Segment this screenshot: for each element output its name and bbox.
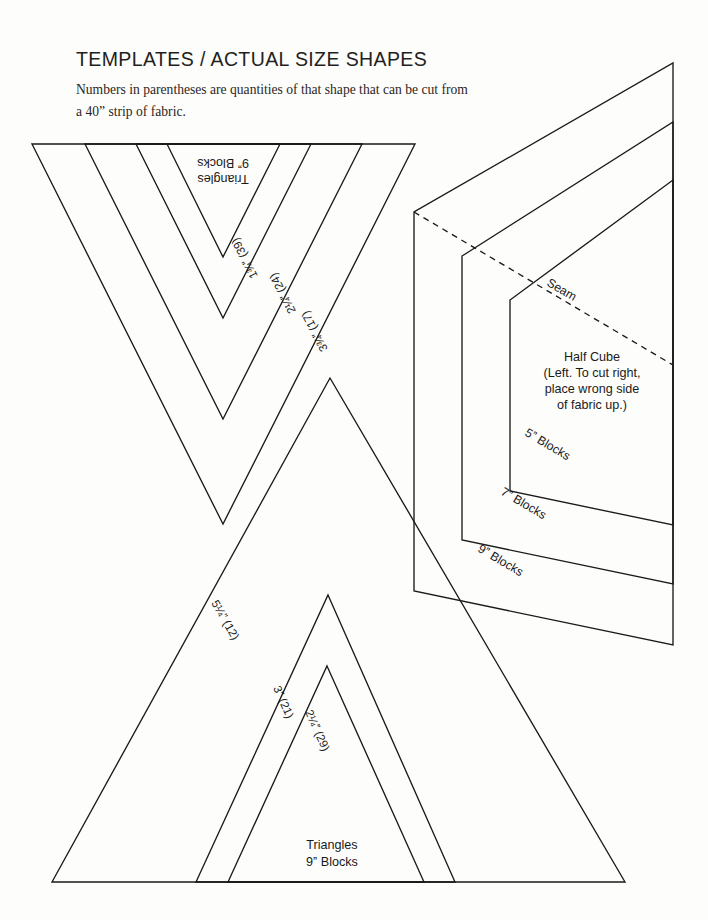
- half-cube-outline-9in: [414, 63, 673, 645]
- half-cube-block-label-9in: 9ˮ Blocks: [475, 542, 525, 580]
- bottom-triangle-edge-label-3: 2¼ˮ (29): [303, 708, 333, 753]
- top-triangle-edge-label-3: 3¾ˮ (17): [298, 309, 330, 354]
- half-cube-note-line-1: (Left. To cut right,: [543, 366, 640, 380]
- top-triangle-edge-label-1: 1¾ˮ (39): [228, 236, 260, 281]
- half-cube-seam-label: Seam: [544, 276, 579, 304]
- templates-drawing: Triangles 9ˮ Blocks 1¾ˮ (39) 2¼ˮ (24) 3¾…: [0, 0, 708, 920]
- bottom-triangle-group: 5¼ˮ (12) 3ˮ (21) 2¼ˮ (29) Triangles 9ˮ B…: [52, 378, 625, 882]
- top-triangle-group: Triangles 9ˮ Blocks 1¾ˮ (39) 2¼ˮ (24) 3¾…: [32, 144, 415, 524]
- half-cube-seam-line: [414, 212, 673, 365]
- top-triangle-caption-line-1: Triangles: [197, 172, 248, 186]
- half-cube-title: Half Cube: [564, 350, 620, 364]
- half-cube-block-label-7in: 7ˮ Blocks: [498, 485, 548, 523]
- bottom-triangle-outline-outer: [52, 378, 625, 882]
- half-cube-note-line-3: of fabric up.): [557, 398, 627, 412]
- top-triangle-caption: Triangles 9ˮ Blocks: [197, 156, 249, 186]
- top-triangle-outline-outer: [32, 144, 415, 524]
- top-triangle-caption-line-2: 9ˮ Blocks: [197, 156, 249, 170]
- bottom-triangle-edge-label-2: 3ˮ (21): [271, 684, 297, 721]
- half-cube-note-line-2: place wrong side: [545, 382, 640, 396]
- template-page: Templates / Actual Size Shapes Numbers i…: [0, 0, 708, 920]
- half-cube-group: Seam 5ˮ Blocks 7ˮ Blocks 9ˮ Blocks Half …: [414, 63, 673, 645]
- top-triangle-edge-label-2: 2¼ˮ (24): [266, 271, 298, 316]
- bottom-triangle-edge-label-1: 5¼ˮ (12): [209, 598, 242, 643]
- bottom-triangle-caption-line-2: 9ˮ Blocks: [306, 855, 358, 869]
- half-cube-block-label-5in: 5ˮ Blocks: [522, 426, 572, 464]
- bottom-triangle-caption-line-1: Triangles: [306, 838, 357, 852]
